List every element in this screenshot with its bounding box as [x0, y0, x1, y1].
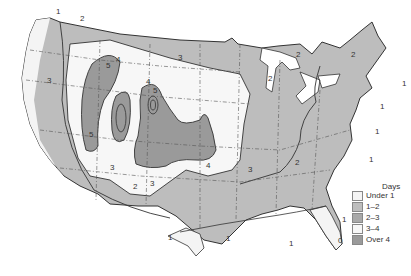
- contour-label: 5: [153, 86, 158, 95]
- contour-label: 1: [342, 215, 347, 224]
- contour-label: 1: [168, 233, 173, 242]
- contour-label: 3: [150, 179, 155, 188]
- contour-label: 2: [133, 182, 138, 191]
- contour-label: 4: [206, 161, 211, 170]
- us-contour-map: 1 2 3 5 4 3 5 4 5 3 3 2 4 3 2 2 2 2 1 1 …: [0, 0, 411, 276]
- contour-label: 1: [56, 7, 61, 16]
- contour-label: 4: [146, 77, 151, 86]
- contour-label: 1: [369, 155, 374, 164]
- legend: Days Under 1 1–2 2–3 3–4 Over 4: [352, 190, 411, 245]
- legend-label: Over 4: [366, 235, 390, 245]
- contour-label: 2: [296, 50, 301, 59]
- contour-label: 2: [295, 158, 300, 167]
- legend-swatch: [352, 235, 363, 245]
- legend-item: 1–2: [352, 201, 411, 212]
- contour-label: 4: [116, 55, 121, 64]
- contour-label: 1: [375, 127, 380, 136]
- contour-label: 3: [248, 165, 253, 174]
- legend-title: Days: [382, 182, 400, 191]
- legend-swatch: [352, 191, 363, 201]
- contour-label: 1: [226, 234, 231, 243]
- contour-label: 2: [80, 14, 85, 23]
- contour-label: 2: [351, 50, 356, 59]
- contour-label: 1: [380, 102, 385, 111]
- contour-label: 5: [106, 61, 111, 70]
- legend-item: Under 1: [352, 190, 411, 201]
- legend-item: 3–4: [352, 223, 411, 234]
- legend-swatch: [352, 202, 363, 212]
- contour-label: 0: [338, 236, 343, 245]
- contour-label: 2: [268, 74, 273, 83]
- contour-label: 5: [89, 130, 94, 139]
- legend-item: 2–3: [352, 212, 411, 223]
- contour-label: 1: [289, 239, 294, 248]
- legend-label: 3–4: [366, 224, 379, 234]
- contour-label: 1: [402, 79, 407, 88]
- legend-label: 1–2: [366, 202, 379, 212]
- legend-label: 2–3: [366, 213, 379, 223]
- legend-item: Over 4: [352, 234, 411, 245]
- contour-label: 3: [47, 76, 52, 85]
- legend-swatch: [352, 224, 363, 234]
- legend-swatch: [352, 213, 363, 223]
- legend-label: Under 1: [366, 191, 394, 201]
- contour-label: 3: [110, 163, 115, 172]
- contour-label: 3: [178, 53, 183, 62]
